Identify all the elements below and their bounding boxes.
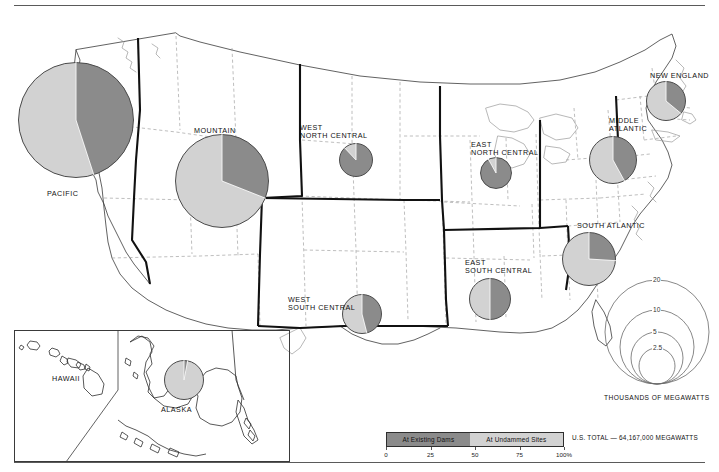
- map-figure: PACIFICMOUNTAINWEST NORTH CENTRALEAST NO…: [0, 0, 719, 472]
- pie-dividers-alaska: [0, 0, 719, 472]
